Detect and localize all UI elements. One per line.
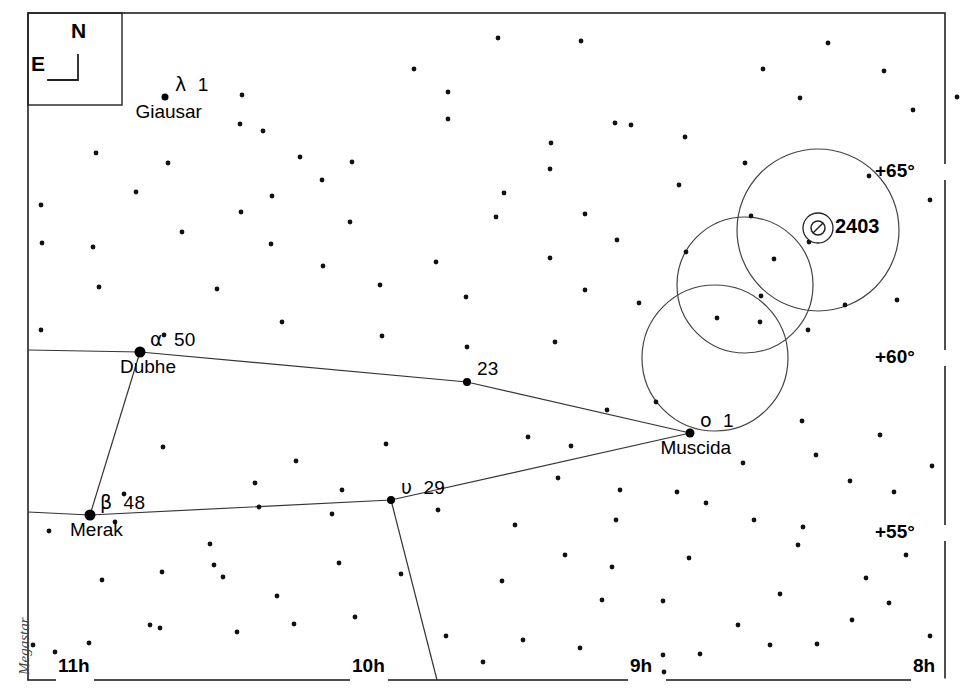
star-chart: N E λ 1Giausarα 50Dubheβ 48Merak23υ 29ο … — [0, 0, 961, 697]
background-star — [464, 295, 469, 300]
background-star — [148, 623, 153, 628]
star-name-muscida: Muscida — [660, 437, 731, 459]
background-star — [661, 653, 666, 658]
background-star — [928, 634, 933, 639]
background-star — [683, 135, 688, 140]
background-star — [892, 490, 897, 495]
ra-tick-label-11h: 11h — [58, 655, 90, 677]
background-star — [321, 264, 326, 269]
ra-tick-label-10h: 10h — [352, 655, 385, 677]
background-star — [434, 260, 439, 265]
background-star — [496, 36, 501, 41]
constellation-line-dubhe-west — [28, 350, 140, 352]
background-star — [848, 479, 853, 484]
background-star — [94, 151, 99, 156]
background-star — [930, 464, 935, 469]
background-star — [904, 553, 909, 558]
background-star — [526, 435, 531, 440]
background-star — [494, 215, 499, 220]
background-star — [270, 194, 275, 199]
star-designation-dubhe: α 50 — [150, 328, 196, 351]
constellation-line-merak-west — [28, 512, 90, 515]
background-star — [928, 198, 933, 203]
background-star — [758, 320, 763, 325]
background-star — [481, 660, 486, 665]
background-star — [556, 476, 561, 481]
background-star — [257, 505, 262, 510]
background-star — [180, 230, 185, 235]
background-star — [814, 453, 819, 458]
background-star — [850, 618, 855, 623]
background-star — [275, 594, 280, 599]
dec-tick-label-60: +60° — [875, 346, 915, 368]
background-star — [801, 525, 806, 530]
field-of-view-circle-2 — [677, 217, 813, 353]
background-star — [878, 433, 883, 438]
background-star — [605, 408, 610, 413]
background-star — [412, 67, 417, 72]
star-name-merak: Merak — [70, 519, 123, 541]
background-star — [340, 488, 345, 493]
background-star — [704, 501, 709, 506]
background-star — [292, 622, 297, 627]
field-of-view-circles — [642, 149, 899, 431]
background-star — [53, 650, 58, 655]
background-star — [615, 238, 620, 243]
background-star — [815, 642, 820, 647]
background-star — [578, 646, 583, 651]
background-star — [40, 241, 45, 246]
background-star — [548, 167, 553, 172]
ra-tick-label-8h: 8h — [913, 655, 935, 677]
compass-north-label: N — [71, 19, 86, 43]
star-designation-23: 23 — [477, 358, 499, 380]
background-star — [221, 575, 226, 580]
background-star — [798, 96, 803, 101]
background-star — [796, 543, 801, 548]
background-star — [348, 220, 353, 225]
background-star — [637, 301, 642, 306]
background-star — [294, 459, 299, 464]
background-star — [158, 626, 163, 631]
background-star — [715, 316, 720, 321]
background-star — [741, 461, 746, 466]
background-star — [955, 95, 960, 100]
background-star — [239, 210, 244, 215]
constellation-line-dubhe-23-muscida — [140, 352, 690, 433]
background-star — [100, 578, 105, 583]
background-star — [378, 283, 383, 288]
background-star — [583, 212, 588, 217]
background-star — [238, 122, 243, 127]
background-star — [563, 553, 568, 558]
background-star — [502, 191, 507, 196]
background-star — [87, 641, 92, 646]
background-star — [521, 638, 526, 643]
background-star — [39, 203, 44, 208]
background-star — [778, 592, 783, 597]
star-name-giausar: Giausar — [135, 101, 202, 123]
compass-east-label: E — [31, 52, 45, 76]
ra-tick-label-9h: 9h — [630, 655, 652, 677]
star-giausar — [162, 94, 169, 101]
background-star — [761, 67, 766, 72]
background-star — [235, 630, 240, 635]
background-star — [320, 178, 325, 183]
background-star — [337, 561, 342, 566]
background-star — [553, 340, 558, 345]
background-star — [161, 445, 166, 450]
background-star — [882, 69, 887, 74]
background-star — [749, 214, 754, 219]
background-star — [212, 563, 217, 568]
background-star — [253, 481, 258, 486]
background-star — [887, 601, 892, 606]
background-star — [743, 161, 748, 166]
background-star — [579, 39, 584, 44]
background-star — [895, 298, 900, 303]
background-star — [208, 542, 213, 547]
background-star — [240, 93, 245, 98]
star-designation-29: υ 29 — [401, 476, 445, 499]
background-star — [500, 579, 505, 584]
background-star — [549, 141, 554, 146]
background-star — [465, 345, 470, 350]
background-star — [548, 256, 553, 261]
background-star — [687, 556, 692, 561]
